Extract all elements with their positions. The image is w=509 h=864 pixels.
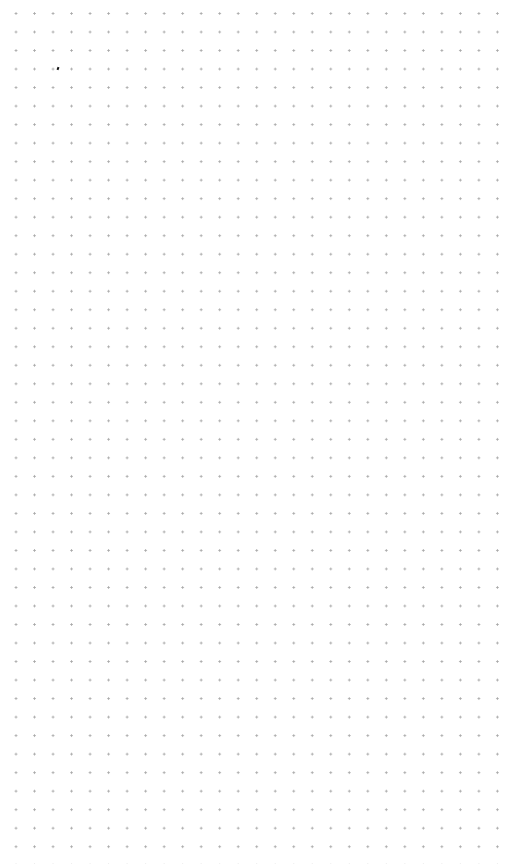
pen-stroke-mark	[57, 67, 60, 71]
dot-grid-canvas[interactable]	[0, 0, 509, 864]
